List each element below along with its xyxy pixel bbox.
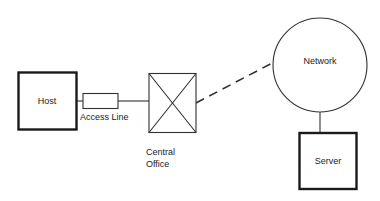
- central-office-label-line1: Central: [146, 147, 175, 157]
- node-central-office[interactable]: Central Office: [146, 74, 196, 170]
- network-diagram-canvas: Host Access Line Central Office Network …: [0, 0, 380, 201]
- access-line-label: Access Line: [80, 112, 129, 122]
- server-label: Server: [315, 156, 342, 166]
- node-host[interactable]: Host: [19, 73, 77, 130]
- network-label: Network: [303, 56, 337, 66]
- access-line-box: [83, 94, 118, 109]
- network-diagram: Host Access Line Central Office Network …: [0, 0, 380, 201]
- node-network[interactable]: Network: [273, 18, 367, 112]
- node-access-line[interactable]: Access Line: [80, 94, 129, 123]
- central-office-label-line2: Office: [146, 159, 169, 169]
- node-server[interactable]: Server: [300, 133, 357, 189]
- connector-central-office-to-network: [196, 61, 276, 103]
- host-label: Host: [38, 96, 57, 106]
